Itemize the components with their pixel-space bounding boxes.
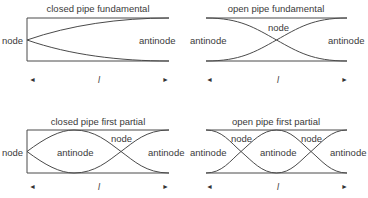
arrow-right-icon: ► bbox=[341, 76, 348, 84]
length-label: l bbox=[277, 75, 279, 85]
arrow-left-icon: ◄ bbox=[206, 183, 213, 191]
panel-title: open pipe fundamental bbox=[228, 3, 325, 14]
arrow-left-icon: ◄ bbox=[29, 76, 36, 84]
antinode-label: antinode bbox=[139, 35, 175, 46]
antinode-label: antinode bbox=[190, 35, 226, 46]
node-label: node bbox=[268, 22, 289, 33]
node-label: node bbox=[111, 133, 132, 144]
arrow-right-icon: ► bbox=[341, 183, 348, 191]
antinode-label: antinode bbox=[148, 147, 184, 158]
node-label: node bbox=[301, 133, 322, 144]
panel-title: open pipe first partial bbox=[232, 116, 320, 127]
arrow-right-icon: ► bbox=[162, 76, 169, 84]
antinode-label: antinode bbox=[57, 147, 93, 158]
antinode-label: antinode bbox=[328, 35, 364, 46]
panel-title: closed pipe fundamental bbox=[47, 3, 150, 14]
node-label: node bbox=[2, 147, 23, 158]
node-label: node bbox=[2, 35, 23, 46]
antinode-label: antinode bbox=[190, 147, 226, 158]
arrow-right-icon: ► bbox=[162, 183, 169, 191]
length-label: l bbox=[98, 75, 100, 85]
standing-wave-diagrams bbox=[0, 0, 368, 198]
antinode-label: antinode bbox=[260, 147, 296, 158]
arrow-left-icon: ◄ bbox=[29, 183, 36, 191]
node-label: node bbox=[231, 133, 252, 144]
antinode-label: antinode bbox=[330, 147, 366, 158]
arrow-left-icon: ◄ bbox=[206, 76, 213, 84]
length-label: l bbox=[98, 182, 100, 192]
length-label: l bbox=[277, 182, 279, 192]
panel-title: closed pipe first partial bbox=[51, 116, 146, 127]
